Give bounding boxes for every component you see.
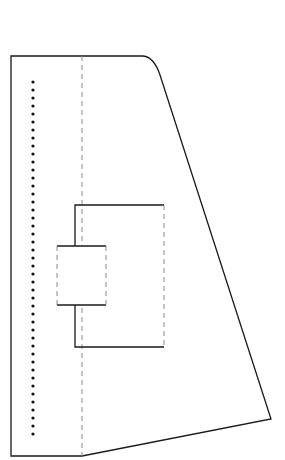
outer-shape [11,56,271,456]
inner-box [57,246,106,305]
dot-column [31,80,34,435]
diagram-canvas [0,0,285,460]
